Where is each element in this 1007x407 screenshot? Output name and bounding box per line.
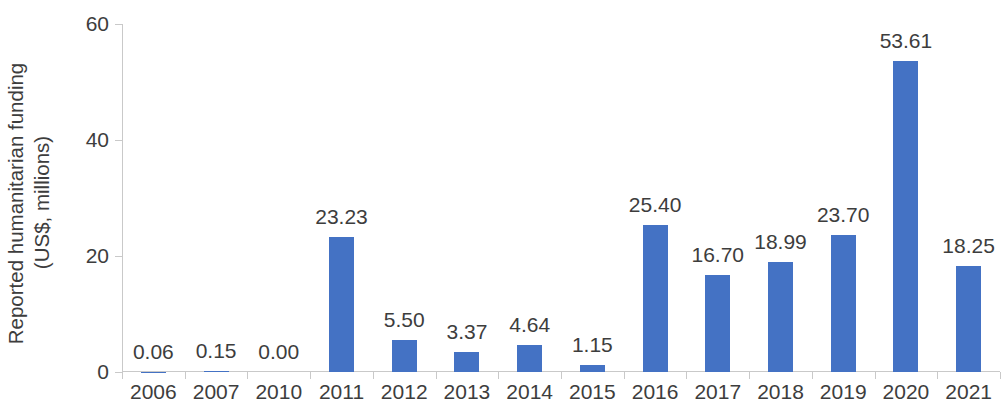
bar-2020[interactable]: [893, 61, 918, 372]
bar-2007[interactable]: [204, 371, 229, 372]
bar-value-label-2016: 25.40: [629, 193, 682, 217]
x-axis-label-2020: 2020: [883, 380, 930, 404]
y-tick-label-0: 0: [97, 360, 109, 384]
bar-2019[interactable]: [831, 235, 856, 372]
bar-value-label-2014: 4.64: [509, 313, 550, 337]
bar-value-label-2020: 53.61: [880, 29, 933, 53]
bar-2018[interactable]: [768, 262, 793, 372]
bar-value-label-2021: 18.25: [942, 234, 995, 258]
x-axis-label-2007: 2007: [193, 380, 240, 404]
y-tick-20: [115, 256, 122, 257]
bar-value-label-2012: 5.50: [384, 308, 425, 332]
bar-value-label-2017: 16.70: [692, 243, 745, 267]
x-axis-label-2021: 2021: [945, 380, 992, 404]
x-tick: [812, 372, 813, 379]
bar-value-label-2007: 0.15: [196, 339, 237, 363]
x-axis-label-2010: 2010: [255, 380, 302, 404]
x-axis-label-2014: 2014: [506, 380, 553, 404]
y-axis-title: Reported humanitarian funding (US$, mill…: [0, 0, 58, 407]
bar-2013[interactable]: [454, 352, 479, 372]
bar-2016[interactable]: [643, 225, 668, 372]
bar-value-label-2018: 18.99: [754, 230, 807, 254]
x-tick: [561, 372, 562, 379]
y-tick-label-40: 40: [86, 128, 109, 152]
x-axis-label-2006: 2006: [130, 380, 177, 404]
plot-area: 0204060 0.060.150.0023.235.503.374.641.1…: [122, 24, 1000, 372]
bar-2011[interactable]: [329, 237, 354, 372]
x-axis-label-2011: 2011: [319, 380, 364, 404]
y-axis-title-line-2: (US$, millions): [29, 136, 55, 271]
x-tick: [937, 372, 938, 379]
x-tick: [247, 372, 248, 379]
x-axis-label-2013: 2013: [444, 380, 491, 404]
bar-2021[interactable]: [956, 266, 981, 372]
x-axis-label-2015: 2015: [569, 380, 616, 404]
y-tick-label-60: 60: [86, 12, 109, 36]
bar-value-label-2019: 23.70: [817, 203, 870, 227]
bar-value-label-2013: 3.37: [446, 320, 487, 344]
bar-value-label-2010: 0.00: [258, 340, 299, 364]
x-axis-label-2017: 2017: [694, 380, 741, 404]
x-tick: [498, 372, 499, 379]
x-axis-label-2018: 2018: [757, 380, 804, 404]
x-axis-label-2012: 2012: [381, 380, 428, 404]
bar-2015[interactable]: [580, 365, 605, 372]
bar-2014[interactable]: [517, 345, 542, 372]
x-tick: [624, 372, 625, 379]
bar-2012[interactable]: [392, 340, 417, 372]
y-tick-0: [115, 372, 122, 373]
bar-2017[interactable]: [705, 275, 730, 372]
x-axis-label-2016: 2016: [632, 380, 679, 404]
y-tick-label-20: 20: [86, 244, 109, 268]
bar-value-label-2015: 1.15: [572, 333, 613, 357]
bar-chart: Reported humanitarian funding (US$, mill…: [0, 0, 1007, 407]
bar-value-label-2011: 23.23: [315, 205, 368, 229]
x-tick: [310, 372, 311, 379]
bar-value-label-2006: 0.06: [133, 340, 174, 364]
x-tick: [185, 372, 186, 379]
y-axis-line: [122, 24, 123, 372]
x-tick: [749, 372, 750, 379]
x-tick: [686, 372, 687, 379]
x-tick: [122, 372, 123, 379]
x-tick: [436, 372, 437, 379]
y-tick-40: [115, 140, 122, 141]
y-axis-title-line-1: Reported humanitarian funding: [3, 63, 29, 345]
y-tick-60: [115, 24, 122, 25]
x-tick: [373, 372, 374, 379]
x-axis-label-2019: 2019: [820, 380, 867, 404]
x-tick: [875, 372, 876, 379]
x-tick: [1000, 372, 1001, 379]
